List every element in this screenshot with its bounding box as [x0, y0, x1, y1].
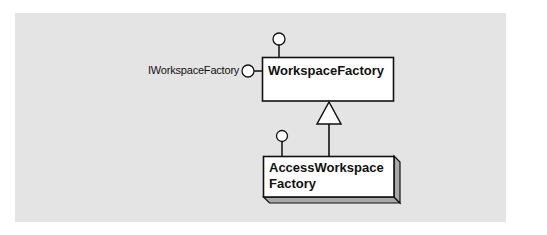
class-name-line-1: AccessWorkspace: [269, 160, 389, 176]
interface-label: IWorkspaceFactory: [148, 64, 239, 76]
interface-lollipop-iworkspacefactory: [242, 65, 262, 77]
interface-lollipop-top: [273, 33, 285, 57]
inheritance-arrow-icon: [317, 102, 341, 124]
uml-diagram: [0, 0, 547, 235]
interface-lollipop-access: [277, 131, 288, 157]
class-name-workspacefactory: WorkspaceFactory: [268, 63, 384, 79]
class-name-line-2: Factory: [269, 176, 389, 192]
class-name-accessworkspacefactory: AccessWorkspace Factory: [269, 160, 389, 192]
